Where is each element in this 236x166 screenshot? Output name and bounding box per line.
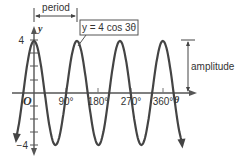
y-tick-neg4: −4	[17, 140, 29, 151]
amplitude-up-arrow-icon	[186, 41, 190, 46]
y-axis-label: y	[37, 23, 43, 34]
amplitude-label: amplitude	[191, 61, 235, 72]
y-tick-4: 4	[18, 35, 24, 46]
equation-pointer	[78, 35, 86, 46]
x-ticks	[66, 88, 163, 93]
equation-label: y = 4 cos 3θ	[82, 22, 137, 33]
origin-label: O	[23, 94, 32, 108]
y-axis-arrow-up-icon	[31, 26, 37, 34]
y-axis-arrow-down-icon	[31, 148, 37, 156]
cosine-graph: 4 −4 y θ O 90° 180° 270° 360° period y =…	[0, 0, 236, 166]
x-tick-270: 270°	[121, 96, 142, 107]
x-axis-arrow-icon	[189, 90, 197, 96]
curve-end-arrow-icon	[177, 139, 185, 149]
period-label: period	[42, 2, 70, 13]
x-axis-label: θ	[174, 94, 180, 105]
period-left-arrow-icon	[35, 14, 40, 18]
x-tick-360: 360°	[153, 96, 174, 107]
x-tick-180: 180°	[88, 96, 109, 107]
x-tick-90: 90°	[58, 96, 73, 107]
period-right-arrow-icon	[71, 14, 76, 18]
